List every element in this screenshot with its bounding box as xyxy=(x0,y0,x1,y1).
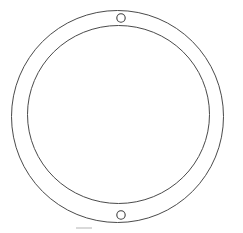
drawing-canvas xyxy=(0,0,243,233)
inner-ring-circle xyxy=(28,26,210,204)
outer-ring-circle xyxy=(12,11,224,223)
bottom-mounting-hole-icon xyxy=(117,211,125,219)
top-mounting-hole-icon xyxy=(117,14,125,22)
ring-drawing-svg xyxy=(0,0,243,233)
